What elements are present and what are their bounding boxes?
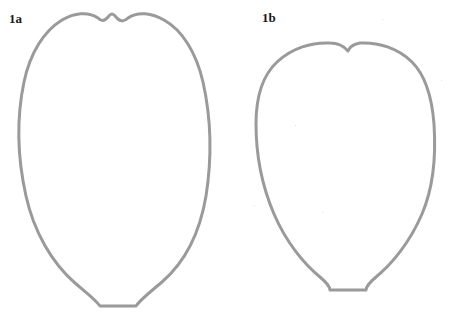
- scan-speck: [382, 19, 383, 20]
- scan-speck: [295, 125, 296, 126]
- figure-drawing-area: [0, 0, 455, 319]
- scan-speck: [322, 212, 323, 213]
- panel-label-1b: 1b: [262, 11, 276, 24]
- scan-speck: [254, 205, 255, 206]
- figure-canvas: 1a 1b: [0, 0, 455, 319]
- scan-speck: [441, 80, 442, 81]
- panel-label-1a: 1a: [9, 12, 22, 25]
